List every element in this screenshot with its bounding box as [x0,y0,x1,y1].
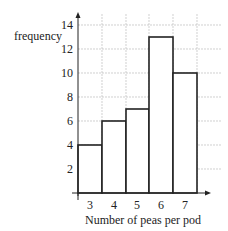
x-axis-arrow-icon [205,191,211,196]
svg-text:2: 2 [67,162,73,176]
svg-text:7: 7 [182,198,188,212]
svg-text:6: 6 [158,198,164,212]
svg-text:4: 4 [67,138,73,152]
bar-3 [78,145,102,193]
svg-text:4: 4 [111,198,117,212]
bar-5 [126,109,149,193]
bar-4 [102,121,126,193]
svg-text:8: 8 [67,90,73,104]
svg-text:10: 10 [61,66,73,80]
bars [78,37,197,193]
y-axis-arrow-icon [76,12,81,18]
svg-text:3: 3 [87,198,93,212]
x-axis-label: Number of peas per pod [85,213,201,227]
histogram-chart: 2 4 6 8 10 12 14 frequency 3 4 5 6 7 Num… [0,0,228,231]
svg-text:5: 5 [134,198,140,212]
svg-text:14: 14 [61,18,73,32]
x-tick-labels: 3 4 5 6 7 [87,198,188,212]
bar-6 [149,37,173,193]
bar-7 [173,73,197,193]
y-axis-label: frequency [14,29,62,43]
chart-svg: 2 4 6 8 10 12 14 frequency 3 4 5 6 7 Num… [0,0,228,231]
svg-text:6: 6 [67,114,73,128]
y-tick-labels: 2 4 6 8 10 12 14 [61,18,73,176]
svg-text:12: 12 [61,42,73,56]
